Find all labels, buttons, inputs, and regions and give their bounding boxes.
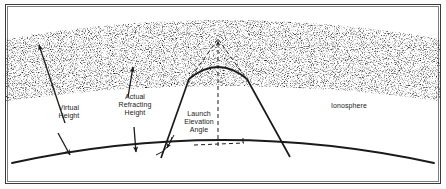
- propagation-diagram: [6, 5, 440, 183]
- horizon-reference-line: [194, 143, 244, 145]
- label-ionosphere: Ionosphere: [318, 102, 380, 110]
- actual-height-lower-arrow: [134, 127, 136, 152]
- figure-canvas: Virtual Height Actual Refracting Height …: [0, 0, 446, 189]
- virtual-height-lower-arrow: [58, 133, 70, 155]
- label-virtual-height: Virtual Height: [45, 104, 93, 120]
- label-launch-elevation-angle: Launch Elevation Angle: [174, 110, 224, 135]
- label-actual-refracting-height: Actual Refracting Height: [109, 93, 161, 118]
- launch-angle-arc: [156, 137, 172, 155]
- figure-border: Virtual Height Actual Refracting Height …: [5, 4, 441, 184]
